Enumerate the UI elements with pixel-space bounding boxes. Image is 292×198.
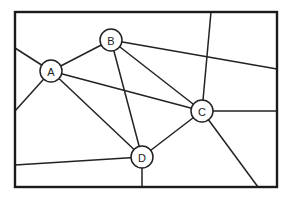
edge-c-to-border bbox=[202, 111, 258, 187]
node-label: B bbox=[107, 35, 114, 47]
edge-c-to-border bbox=[202, 12, 211, 111]
node-d: D bbox=[131, 146, 153, 168]
node-label: A bbox=[47, 66, 55, 78]
node-b: B bbox=[100, 29, 122, 51]
node-a: A bbox=[40, 60, 62, 82]
node-label: D bbox=[138, 152, 146, 164]
edge-b-to-border bbox=[111, 40, 277, 69]
edge-a-c bbox=[51, 71, 202, 111]
edge-b-c bbox=[111, 40, 202, 111]
edge-b-d bbox=[111, 40, 142, 157]
graph-diagram: ABCD bbox=[0, 0, 292, 198]
edge-a-d bbox=[51, 71, 142, 157]
node-label: C bbox=[198, 106, 206, 118]
edge-d-to-border bbox=[15, 157, 142, 165]
node-c: C bbox=[191, 100, 213, 122]
